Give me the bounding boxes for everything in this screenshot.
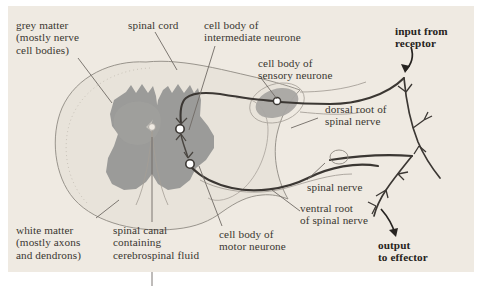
label-intermediate-neurone: cell body of intermediate neurone — [204, 19, 301, 44]
spinal-canal-opening — [149, 124, 156, 131]
leader-ventral-root — [272, 190, 300, 211]
label-sensory-neurone: cell body of sensory neurone — [258, 57, 333, 82]
synapse-intermediate-to-motor — [186, 160, 194, 168]
label-dorsal-root: dorsal root of spinal nerve — [325, 103, 387, 128]
leader-dorsal-root — [291, 118, 318, 128]
label-motor-neurone: cell body of motor neurone — [219, 228, 286, 253]
receptor-branch-3 — [414, 146, 426, 154]
synapse-sensory-to-intermediate — [176, 125, 184, 133]
receptor-branch-main — [404, 78, 440, 178]
label-output-to-effector: output to effector — [378, 239, 428, 264]
label-white-matter: white matter (mostly axons and dendrons) — [16, 224, 81, 261]
output-arrow-head — [389, 228, 398, 237]
receptor-branch-2 — [413, 112, 432, 128]
label-grey-matter: grey matter (mostly nerve cell bodies) — [16, 19, 79, 56]
figure-page: grey matter (mostly nerve cell bodies) s… — [0, 0, 482, 288]
label-spinal-nerve: spinal nerve — [307, 181, 363, 193]
label-input-from-receptor: input from receptor — [395, 25, 448, 50]
label-spinal-canal: spinal canal containing cerebrospinal fl… — [113, 224, 199, 261]
spinal-nerve-trunk — [330, 155, 412, 160]
effector-branch-main — [374, 156, 412, 216]
label-spinal-cord: spinal cord — [128, 19, 179, 31]
effector-branch-1 — [398, 172, 408, 180]
label-ventral-root: ventral root of spinal nerve — [300, 202, 368, 227]
